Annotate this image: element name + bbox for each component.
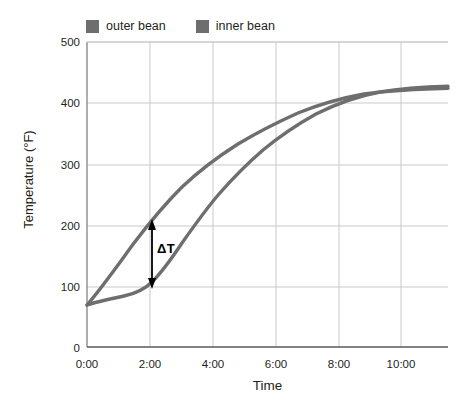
- x-axis-title: Time: [87, 378, 448, 393]
- temperature-time-chart: outer bean inner bean Temperature (°F) 5…: [0, 0, 459, 412]
- x-axis-tick-labels: 0:00 2:00 4:00 6:00 8:00 10:00: [0, 0, 459, 412]
- x-tick-label: 4:00: [183, 358, 243, 370]
- x-tick-label: 2:00: [120, 358, 180, 370]
- x-tick-label: 0:00: [57, 358, 117, 370]
- x-tick-label: 6:00: [246, 358, 306, 370]
- x-tick-label: 8:00: [309, 358, 369, 370]
- x-tick-label: 10:00: [371, 358, 431, 370]
